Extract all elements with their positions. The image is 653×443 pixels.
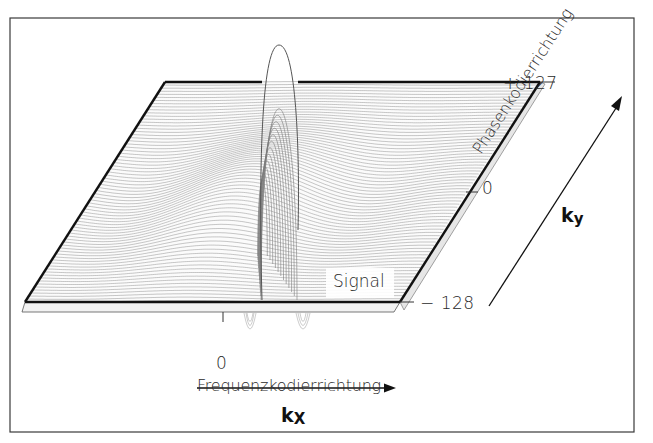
kx-symbol: kX xyxy=(281,406,305,427)
kspace-signal-diagram: + 127 0 − 128 Signal 0 Frequenzkodierric… xyxy=(0,0,653,443)
x-axis-title: Frequenzkodierrichtung xyxy=(197,378,381,394)
signal-dips-below xyxy=(244,313,310,329)
kx-symbol-sub: X xyxy=(294,410,306,428)
kx-arrow-head-icon xyxy=(384,384,396,393)
signal-label: Signal xyxy=(333,273,385,290)
kx-symbol-base: k xyxy=(281,404,294,426)
kx-zero-label: 0 xyxy=(216,355,227,372)
ky-symbol: ky xyxy=(561,206,583,227)
plate-underside xyxy=(22,302,400,312)
ky-symbol-base: k xyxy=(561,204,574,226)
ky-symbol-sub: y xyxy=(574,210,584,228)
ky-min-label: − 128 xyxy=(420,295,475,312)
ky-arrow-head-icon xyxy=(611,96,622,111)
ky-zero-label: 0 xyxy=(482,180,493,197)
